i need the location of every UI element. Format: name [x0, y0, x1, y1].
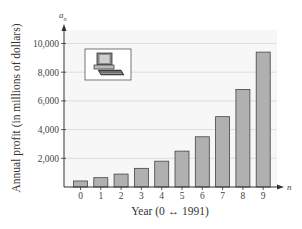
x-tick-label: 4 — [159, 191, 164, 201]
y-tick-label: 2,000 — [38, 154, 60, 164]
x-tick-label: 5 — [180, 191, 185, 201]
x-tick-label: 0 — [78, 191, 83, 201]
y-tick-label: 10,000 — [33, 39, 59, 49]
bar-5 — [175, 151, 189, 187]
bar-6 — [195, 137, 209, 187]
bar-chart: 2,0004,0006,0008,00010,000 0123456789 an… — [0, 0, 302, 229]
x-axis-variable: n — [287, 182, 292, 192]
bar-4 — [155, 161, 169, 187]
bar-8 — [236, 89, 250, 187]
y-ticks: 2,0004,0006,0008,00010,000 — [33, 39, 66, 164]
y-tick-label: 8,000 — [38, 68, 60, 78]
bar-9 — [256, 52, 270, 187]
bar-7 — [216, 117, 230, 187]
x-tick-label: 6 — [200, 191, 205, 201]
computer-icon — [85, 49, 131, 80]
y-tick-label: 4,000 — [38, 125, 60, 135]
bar-1 — [94, 178, 108, 187]
x-tick-label: 8 — [241, 191, 246, 201]
bar-0 — [74, 181, 88, 187]
x-tick-label: 3 — [139, 191, 144, 201]
x-axis-title: Year (0 ↔ 1991) — [131, 205, 209, 218]
x-ticks: 0123456789 — [78, 187, 266, 201]
y-tick-label: 6,000 — [38, 96, 60, 106]
x-axis-arrow-icon — [277, 185, 284, 190]
bar-3 — [134, 168, 148, 187]
x-tick-label: 9 — [261, 191, 266, 201]
x-tick-label: 1 — [98, 191, 103, 201]
y-axis-variable: an — [59, 10, 67, 22]
x-tick-label: 7 — [220, 191, 225, 201]
y-axis-arrow-icon — [62, 24, 67, 31]
bar-2 — [114, 174, 128, 187]
x-tick-label: 2 — [119, 191, 124, 201]
y-axis-title: Annual profit (in millions of dollars) — [10, 23, 23, 192]
